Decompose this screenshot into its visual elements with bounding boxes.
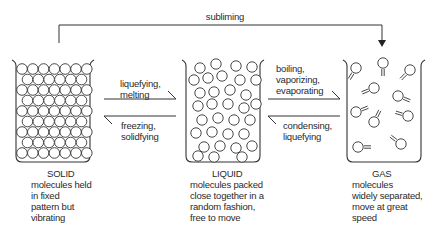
gas-desc-line: speed (352, 212, 423, 223)
gas-caption: GAS molecules widely separated, move at … (352, 168, 423, 223)
motion-line-icon (362, 91, 368, 94)
molecule-icon (17, 85, 28, 96)
molecule-icon (193, 101, 203, 111)
solid-desc-line: pattern but (31, 201, 92, 212)
molecule-icon (38, 85, 49, 96)
molecule-icon (405, 65, 415, 75)
molecule-icon (65, 137, 76, 148)
molecule-icon (241, 90, 251, 100)
molecule-icon (82, 85, 93, 96)
molecule-icon (191, 128, 201, 138)
motion-line-icon (403, 99, 409, 102)
molecule-icon (82, 148, 93, 159)
gas-desc-line: molecules (352, 179, 423, 190)
molecule-icon (369, 83, 379, 93)
molecule-icon (71, 127, 82, 138)
liquid-desc-line: random fashion, (190, 201, 264, 212)
molecule-icon (38, 64, 49, 75)
gas-molecules (348, 58, 415, 152)
boiling-label-line: evaporating (276, 85, 323, 96)
molecule-icon (28, 85, 39, 96)
molecule-icon (231, 143, 241, 153)
molecule-icon (213, 113, 223, 123)
melting-label-line: melting (120, 89, 161, 100)
molecule-icon (28, 64, 39, 75)
molecule-icon (60, 64, 71, 75)
solid-title: SOLID (31, 168, 92, 179)
molecule-icon (351, 63, 361, 73)
motion-line-icon (404, 97, 410, 100)
subliming-label: subliming (195, 11, 255, 22)
molecule-icon (33, 137, 44, 148)
molecule-icon (55, 74, 66, 85)
boiling-label: boiling, vaporizing, evaporating (276, 63, 323, 96)
liquid-desc-line: close together in a (190, 190, 264, 201)
motion-line-icon (396, 111, 403, 113)
molecule-icon (65, 95, 76, 106)
freezing-label-line: solidfying (121, 131, 159, 142)
molecule-icon (76, 116, 87, 127)
molecule-icon (207, 99, 217, 109)
molecule-icon (82, 127, 93, 138)
molecule-icon (378, 58, 388, 68)
molecule-icon (71, 106, 82, 117)
molecule-icon (60, 106, 71, 117)
molecule-icon (44, 137, 55, 148)
motion-line-icon (361, 89, 367, 92)
molecule-icon (38, 148, 49, 159)
condensing-label-line: condensing, (283, 120, 332, 131)
solid-molecules (17, 64, 92, 159)
molecule-icon (49, 106, 60, 117)
molecule-icon (49, 148, 60, 159)
molecule-icon (17, 64, 28, 75)
gas-desc-line: move at great (352, 201, 423, 212)
molecule-icon (22, 116, 33, 127)
molecule-icon (209, 87, 219, 97)
liquid-desc-line: molecules packed (190, 179, 264, 190)
molecule-icon (209, 152, 219, 162)
motion-line-icon (395, 113, 402, 115)
molecule-icon (17, 106, 28, 117)
molecule-icon (33, 95, 44, 106)
subliming-arrow (59, 25, 386, 47)
molecule-icon (211, 59, 221, 69)
states-of-matter-diagram: subliming liquefying, melting freezing, … (0, 0, 441, 234)
melting-label-line: liquefying, (120, 78, 161, 89)
molecule-icon (197, 115, 207, 125)
molecule-icon (82, 106, 93, 117)
molecule-icon (38, 127, 49, 138)
gas-title: GAS (352, 168, 423, 179)
molecule-icon (49, 64, 60, 75)
molecule-icon (237, 152, 247, 162)
molecule-icon (44, 116, 55, 127)
liquid-molecules (189, 59, 261, 162)
molecule-icon (44, 95, 55, 106)
molecule-icon (17, 127, 28, 138)
molecule-icon (33, 74, 44, 85)
molecule-icon (60, 85, 71, 96)
molecule-icon (22, 137, 33, 148)
molecule-icon (71, 85, 82, 96)
molecule-icon (76, 137, 87, 148)
molecule-icon (247, 141, 257, 151)
solid-caption: SOLID molecules held in fixed pattern bu… (31, 168, 92, 223)
molecule-icon (199, 142, 209, 152)
molecule-icon (60, 127, 71, 138)
molecule-icon (251, 75, 261, 85)
molecule-icon (247, 62, 257, 72)
melting-label: liquefying, melting (120, 78, 161, 100)
molecule-icon (223, 99, 233, 109)
molecule-icon (65, 74, 76, 85)
solid-desc-line: vibrating (31, 212, 92, 223)
molecule-icon (22, 95, 33, 106)
molecule-icon (229, 115, 239, 125)
molecule-icon (369, 117, 379, 127)
molecule-icon (353, 142, 363, 152)
molecule-icon (195, 88, 205, 98)
molecule-icon (217, 71, 227, 81)
molecule-icon (193, 151, 203, 161)
molecule-icon (235, 75, 245, 85)
molecule-icon (351, 107, 361, 117)
molecule-icon (33, 116, 44, 127)
molecule-icon (44, 74, 55, 85)
